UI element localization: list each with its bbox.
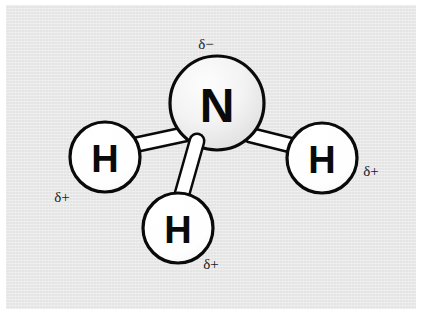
nitrogen-symbol-label: N	[200, 79, 235, 132]
bond-nitrogen-hydrogen-bottom	[182, 141, 197, 194]
hydrogen-bottom-symbol-label: H	[164, 209, 191, 251]
delta-positive-label-hydrogen-right: δ+	[363, 163, 379, 179]
ammonia-molecule-figure: N H H H δ− δ+ δ+ δ+	[0, 0, 422, 314]
delta-positive-label-hydrogen-left: δ+	[54, 189, 70, 205]
hydrogen-right-symbol-label: H	[308, 139, 335, 181]
bond-fill	[182, 141, 197, 194]
delta-negative-label-nitrogen: δ−	[198, 36, 214, 52]
atom-hydrogen-bottom: H	[143, 193, 213, 263]
diagram-canvas: N H H H δ− δ+ δ+ δ+	[0, 0, 422, 314]
delta-positive-label-hydrogen-bottom: δ+	[203, 256, 219, 272]
atom-hydrogen-left: H	[70, 122, 140, 192]
hydrogen-left-symbol-label: H	[91, 138, 118, 180]
atom-hydrogen-right: H	[287, 123, 357, 193]
atom-nitrogen: N	[170, 56, 264, 150]
